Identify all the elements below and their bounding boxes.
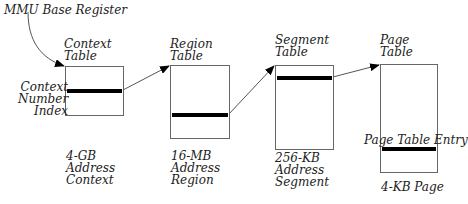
segment-table bbox=[275, 65, 334, 150]
page-table-entry-bar bbox=[382, 147, 436, 151]
region-caption: 16-MB Address Region bbox=[171, 150, 220, 186]
context-table-title: Context Table bbox=[64, 38, 112, 62]
segment-caption: 256-KB Address Segment bbox=[275, 152, 329, 188]
region-entry-bar bbox=[172, 113, 228, 117]
page-caption: 4-KB Page bbox=[381, 181, 444, 193]
base-register-arrow bbox=[28, 12, 64, 66]
context-caption: 4-GB Address Context bbox=[66, 150, 115, 186]
segment-to-page-arrow bbox=[333, 65, 379, 77]
mmu-base-register-label: MMU Base Register bbox=[4, 4, 127, 16]
context-to-region-arrow bbox=[123, 66, 169, 90]
page-table bbox=[380, 64, 438, 173]
context-entry-bar bbox=[67, 89, 122, 93]
page-table-entry-label: Page Table Entry bbox=[364, 134, 468, 146]
page-table-title: Page Table bbox=[380, 34, 413, 58]
segment-table-title: Segment Table bbox=[275, 34, 329, 58]
region-table bbox=[170, 65, 230, 139]
context-table bbox=[65, 66, 124, 116]
region-to-segment-arrow bbox=[229, 66, 274, 114]
context-number-index-label: Context Number Index bbox=[18, 81, 68, 117]
segment-entry-bar bbox=[277, 76, 332, 80]
region-table-title: Region Table bbox=[170, 38, 213, 62]
